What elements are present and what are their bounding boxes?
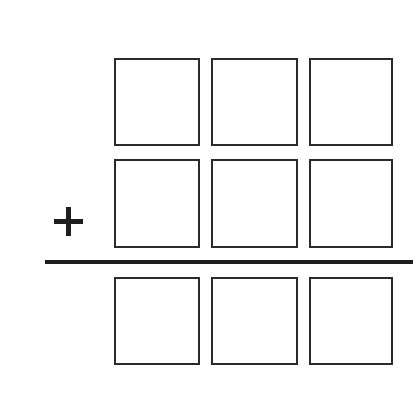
plus-icon — [54, 207, 83, 236]
sum-rule-line — [45, 260, 413, 264]
digit-value — [311, 279, 391, 363]
digit-box-sum-ones[interactable] — [309, 277, 393, 365]
digit-value — [213, 60, 296, 144]
digit-box-addend1-ones[interactable] — [309, 58, 393, 146]
digit-box-addend2-tens[interactable] — [211, 159, 298, 248]
digit-box-sum-hundreds[interactable] — [114, 277, 200, 365]
digit-value — [116, 279, 198, 363]
digit-value — [311, 161, 391, 246]
digit-value — [311, 60, 391, 144]
digit-value — [116, 60, 198, 144]
digit-value — [116, 161, 198, 246]
digit-value — [213, 161, 296, 246]
addition-worksheet — [0, 0, 417, 398]
digit-value — [213, 279, 296, 363]
digit-box-addend2-hundreds[interactable] — [114, 159, 200, 248]
digit-box-sum-tens[interactable] — [211, 277, 298, 365]
digit-box-addend1-tens[interactable] — [211, 58, 298, 146]
digit-box-addend1-hundreds[interactable] — [114, 58, 200, 146]
digit-box-addend2-ones[interactable] — [309, 159, 393, 248]
plus-icon-vertical-bar — [66, 207, 71, 236]
